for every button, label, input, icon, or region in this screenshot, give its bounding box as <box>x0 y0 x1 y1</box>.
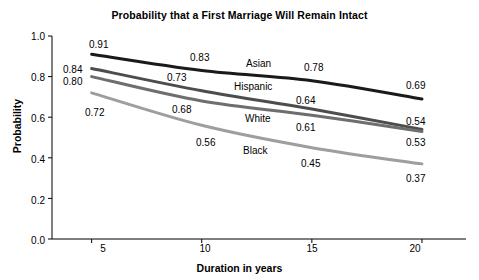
chart-container: Probability that a First Marriage Will R… <box>0 0 479 280</box>
series-label-asian: Asian <box>246 58 271 69</box>
data-point-label: 0.72 <box>85 107 104 118</box>
data-point-label: 0.37 <box>406 173 425 184</box>
y-tick-label: 1.0 <box>13 31 45 42</box>
data-point-label: 0.53 <box>406 137 425 148</box>
series-label-white: White <box>245 113 271 124</box>
data-point-label: 0.73 <box>167 72 186 83</box>
data-point-label: 0.56 <box>196 137 215 148</box>
x-axis-title: Duration in years <box>0 262 479 274</box>
data-point-label: 0.61 <box>296 122 315 133</box>
y-tick-label: 0.2 <box>13 195 45 206</box>
x-tick-label: 20 <box>400 243 430 254</box>
data-point-label: 0.91 <box>89 39 108 50</box>
series-label-black: Black <box>243 145 267 156</box>
data-point-label: 0.54 <box>406 116 425 127</box>
data-point-label: 0.84 <box>63 64 82 75</box>
data-point-label: 0.80 <box>63 76 82 87</box>
x-tick-label: 5 <box>88 243 118 254</box>
y-axis-title: Probability <box>11 81 23 171</box>
series-label-hispanic: Hispanic <box>234 81 272 92</box>
y-tick-label: 0.0 <box>13 235 45 246</box>
data-point-label: 0.68 <box>172 104 191 115</box>
x-tick-label: 15 <box>297 243 327 254</box>
data-point-label: 0.78 <box>304 62 323 73</box>
data-point-label: 0.64 <box>296 95 315 106</box>
data-point-label: 0.83 <box>190 52 209 63</box>
data-point-label: 0.69 <box>406 80 425 91</box>
data-point-label: 0.45 <box>301 158 320 169</box>
x-tick-label: 10 <box>190 243 220 254</box>
